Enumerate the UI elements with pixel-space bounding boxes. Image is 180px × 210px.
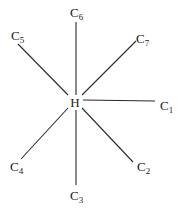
- atom-label-c3: C3: [70, 188, 84, 205]
- atom-labels: H C1C2C3C4C5C6C7: [10, 5, 173, 205]
- atom-subscript: 4: [19, 166, 24, 176]
- atom-label-c4: C4: [10, 159, 24, 176]
- atom-label-c2: C2: [137, 159, 150, 176]
- bond-h-c4: [21, 108, 68, 159]
- hydrogen-carbon-coordination-diagram: H C1C2C3C4C5C6C7: [0, 0, 180, 210]
- atom-label-c6: C6: [70, 5, 84, 22]
- atom-subscript: 5: [20, 35, 25, 45]
- atom-subscript: 6: [79, 12, 84, 22]
- atom-label-c1: C1: [160, 98, 173, 115]
- bond-h-c5: [18, 44, 68, 95]
- atom-subscript: 7: [145, 38, 150, 48]
- bond-h-c1: [83, 100, 155, 101]
- atom-subscript: 1: [169, 105, 174, 115]
- bond-lines: [18, 22, 155, 185]
- atom-subscript: 2: [146, 166, 151, 176]
- atom-label-c7: C7: [136, 31, 150, 48]
- atom-subscript: 3: [79, 195, 84, 205]
- bond-h-c7: [82, 41, 136, 95]
- bond-h-c2: [82, 108, 133, 162]
- center-atom-label-h: H: [70, 95, 79, 110]
- atom-label-c5: C5: [11, 28, 25, 45]
